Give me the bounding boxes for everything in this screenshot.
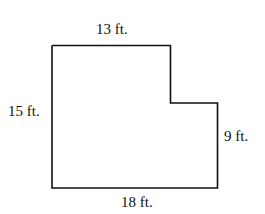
right-dimension-label: 9 ft.: [224, 129, 248, 144]
bottom-dimension-label: 18 ft.: [121, 195, 153, 210]
left-dimension-label: 15 ft.: [8, 104, 40, 119]
l-shape-figure: [0, 0, 265, 214]
top-dimension-label: 13 ft.: [96, 22, 128, 37]
l-shape-outline: [52, 46, 218, 189]
